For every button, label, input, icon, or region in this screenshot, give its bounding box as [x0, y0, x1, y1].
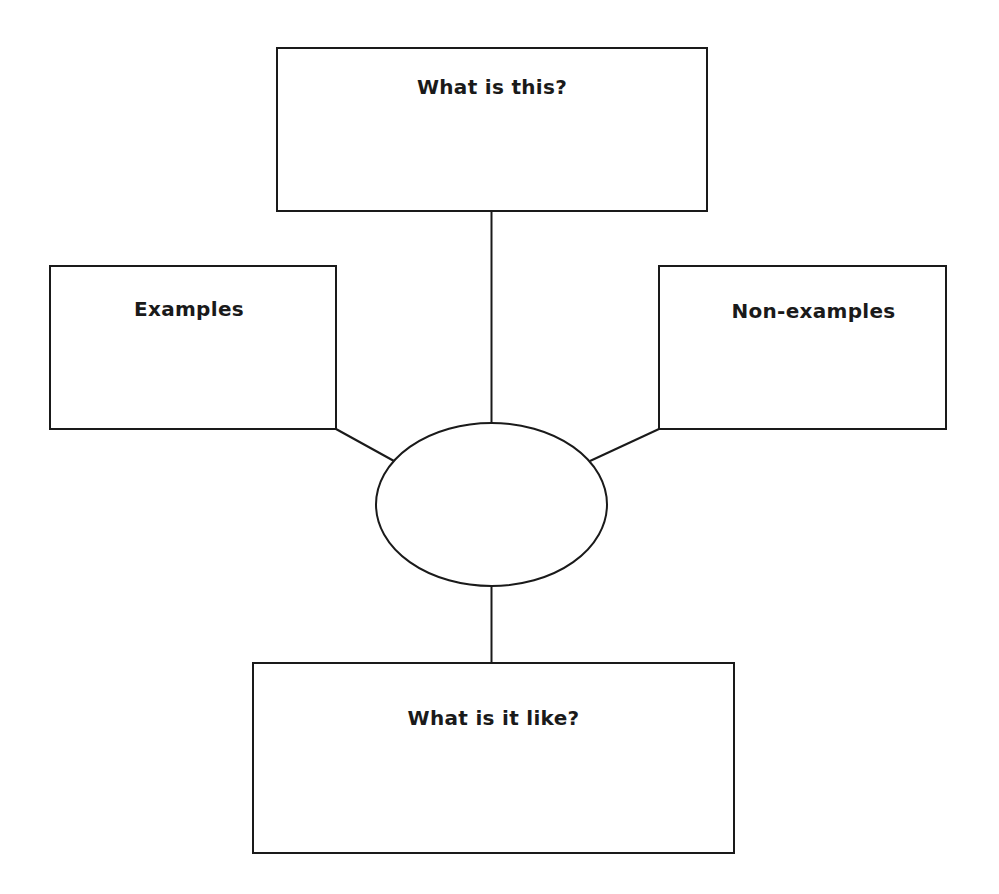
examples-label: Examples	[43, 297, 335, 321]
non-examples-box[interactable]: Non-examples	[658, 265, 947, 430]
connector-right	[590, 429, 659, 461]
non-examples-label: Non-examples	[682, 299, 945, 323]
what-is-it-like-box[interactable]: What is it like?	[252, 662, 735, 854]
what-is-it-like-label: What is it like?	[254, 706, 733, 730]
concept-map-canvas: What is this? Examples Non-examples What…	[0, 0, 999, 894]
examples-box[interactable]: Examples	[49, 265, 337, 430]
connector-left	[336, 429, 394, 461]
center-ellipse[interactable]	[376, 423, 607, 586]
what-is-this-box[interactable]: What is this?	[276, 47, 708, 212]
what-is-this-label: What is this?	[278, 75, 706, 99]
